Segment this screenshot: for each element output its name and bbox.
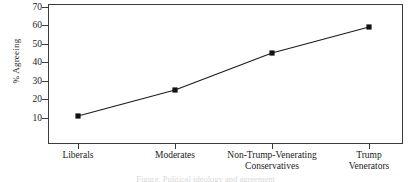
data-line: [78, 27, 369, 116]
x-tick-mark: [369, 144, 370, 149]
y-tick-label: 50: [20, 40, 42, 50]
y-tick-label: 10: [20, 114, 42, 124]
data-point-marker: [366, 24, 371, 29]
line-series-svg: [49, 5, 402, 143]
figure-caption: Figure. Political ideology and agreement: [0, 174, 411, 182]
x-tick-mark: [78, 144, 79, 149]
y-tick-label: 20: [20, 95, 42, 105]
y-tick-label: 60: [20, 21, 42, 31]
x-tick-label-trump-venerators: Trump Venerators: [329, 150, 409, 172]
x-tick-label-non-trump-venerating-conservatives: Non-Trump-Venerating Conservatives: [200, 150, 344, 172]
y-tick-label: 30: [20, 77, 42, 87]
x-tick-mark: [175, 144, 176, 149]
data-point-marker: [75, 113, 80, 118]
x-tick-label-liberals: Liberals: [28, 150, 128, 161]
data-point-marker: [269, 50, 274, 55]
y-tick-label: 40: [20, 58, 42, 68]
data-point-marker: [172, 87, 177, 92]
y-tick-label: 70: [20, 3, 42, 13]
plot-area: [48, 4, 403, 144]
x-tick-mark: [272, 144, 273, 149]
chart-figure: % Agreeing 70 60 50 40 30 20 10 Liberals…: [0, 0, 411, 182]
